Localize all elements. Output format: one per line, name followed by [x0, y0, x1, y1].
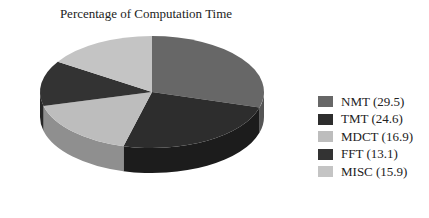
legend-swatch [318, 149, 333, 160]
legend-label: MDCT (16.9) [341, 129, 413, 145]
legend-label: NMT (29.5) [341, 94, 404, 110]
legend-item-nmt: NMT (29.5) [318, 93, 413, 111]
legend-item-fft: FFT (13.1) [318, 146, 413, 164]
pie-chart [0, 0, 300, 218]
legend-label: MISC (15.9) [341, 164, 407, 180]
legend-item-mdct: MDCT (16.9) [318, 128, 413, 146]
pie-slices [40, 36, 264, 148]
legend-label: FFT (13.1) [341, 146, 398, 162]
legend-swatch [318, 131, 333, 142]
legend-swatch [318, 166, 333, 177]
legend-label: TMT (24.6) [341, 111, 403, 127]
legend: NMT (29.5) TMT (24.6) MDCT (16.9) FFT (1… [318, 93, 413, 181]
legend-item-misc: MISC (15.9) [318, 163, 413, 181]
legend-swatch [318, 114, 333, 125]
legend-item-tmt: TMT (24.6) [318, 111, 413, 129]
legend-swatch [318, 96, 333, 107]
